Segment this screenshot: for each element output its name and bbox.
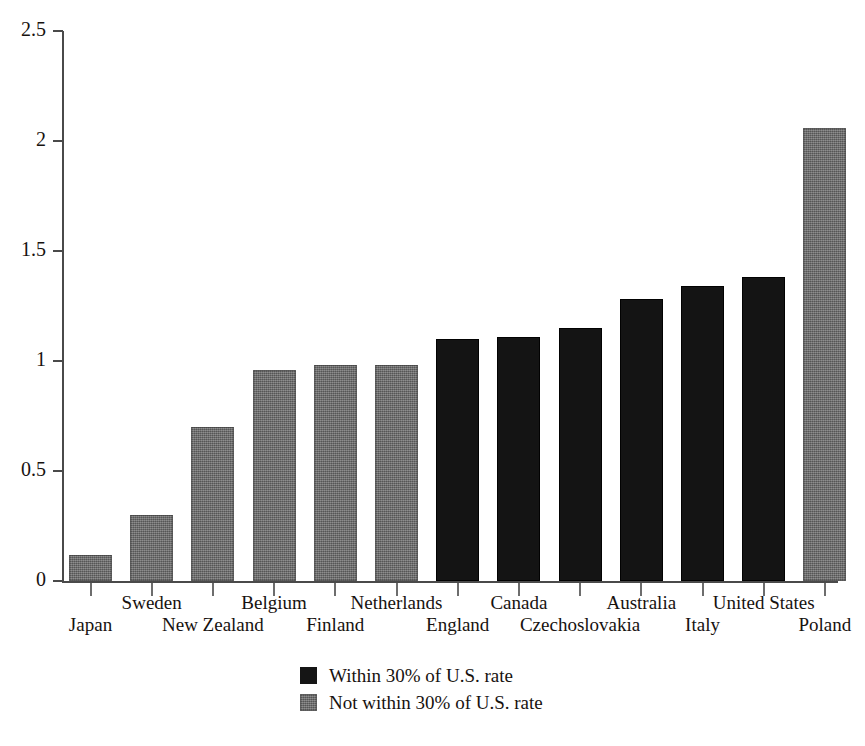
y-axis-line <box>62 31 64 581</box>
bar-netherlands <box>375 365 418 581</box>
x-label-netherlands: Netherlands <box>351 592 443 613</box>
bar-italy <box>681 286 724 581</box>
bar-united-states <box>742 277 785 581</box>
bar-england <box>436 339 479 581</box>
y-tick-label: 2 <box>36 128 46 150</box>
x-label-czechoslovakia: Czechoslovakia <box>520 614 640 635</box>
x-tick-czechoslovakia <box>579 583 581 596</box>
legend-item-within: Within 30% of U.S. rate <box>300 662 630 689</box>
legend: Within 30% of U.S. rate Not within 30% o… <box>300 662 630 716</box>
x-label-australia: Australia <box>606 592 676 613</box>
x-label-canada: Canada <box>490 592 547 613</box>
y-tick-1.5: 1.5 <box>53 250 63 252</box>
bar-belgium <box>253 370 296 581</box>
x-tick-new-zealand <box>212 583 214 596</box>
y-tick-label: 2.5 <box>21 18 46 40</box>
bar-australia <box>620 299 663 581</box>
bar-japan <box>69 555 112 581</box>
x-label-united-states: United States <box>713 592 815 613</box>
y-tick-2: 2 <box>53 140 63 142</box>
x-label-poland: Poland <box>799 614 852 635</box>
x-tick-england <box>457 583 459 596</box>
y-tick-2.5: 2.5 <box>53 30 63 32</box>
legend-label-within: Within 30% of U.S. rate <box>329 665 513 686</box>
bar-sweden <box>130 515 173 581</box>
legend-item-not-within: Not within 30% of U.S. rate <box>300 689 630 716</box>
y-tick-label: 0.5 <box>21 458 46 480</box>
y-tick-0.5: 0.5 <box>53 470 63 472</box>
legend-label-not-within: Not within 30% of U.S. rate <box>329 692 543 713</box>
bar-czechoslovakia <box>559 328 602 581</box>
y-tick-label: 0 <box>36 568 46 590</box>
x-label-italy: Italy <box>685 614 720 635</box>
x-label-new-zealand: New Zealand <box>162 614 264 635</box>
legend-swatch-black-icon <box>300 667 317 684</box>
y-tick-0: 0 <box>53 580 63 582</box>
y-tick-label: 1.5 <box>21 238 46 260</box>
y-tick-1: 1 <box>53 360 63 362</box>
x-tick-poland <box>824 583 826 596</box>
x-label-belgium: Belgium <box>241 592 306 613</box>
x-tick-japan <box>90 583 92 596</box>
bar-poland <box>803 128 846 581</box>
bar-finland <box>314 365 357 581</box>
x-label-japan: Japan <box>69 614 112 635</box>
x-tick-italy <box>702 583 704 596</box>
bar-canada <box>497 337 540 581</box>
x-label-finland: Finland <box>306 614 364 635</box>
plot-area: 00.511.522.5 <box>62 31 838 581</box>
x-tick-finland <box>334 583 336 596</box>
legend-swatch-gray-icon <box>300 694 317 711</box>
x-label-england: England <box>426 614 489 635</box>
bar-new-zealand <box>191 427 234 581</box>
y-tick-label: 1 <box>36 348 46 370</box>
bar-chart: 00.511.522.5 JapanSwedenNew ZealandBelgi… <box>0 0 865 746</box>
x-label-sweden: Sweden <box>122 592 182 613</box>
x-axis-line <box>62 581 838 583</box>
